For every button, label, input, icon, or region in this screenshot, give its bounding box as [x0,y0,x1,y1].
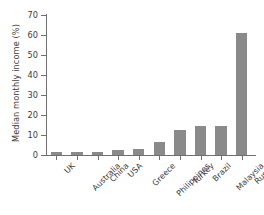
bar [174,130,186,155]
x-tick-label: Greece [151,162,177,188]
y-tick-label: 40 [0,71,38,79]
y-tick-label: 30 [0,91,38,99]
y-tick-label: 0 [0,151,38,159]
x-tick-mark [242,156,243,160]
y-tick-label: 60 [0,31,38,39]
x-tick-mark [180,156,181,160]
y-tick-label: 70 [0,11,38,19]
bar [71,152,83,155]
x-tick-mark [159,156,160,160]
x-tick-mark [118,156,119,160]
bar [236,33,248,155]
bar [133,149,145,155]
y-tick-label: 20 [0,111,38,119]
x-tick-mark [201,156,202,160]
y-tick-label: 50 [0,51,38,59]
x-tick-mark [98,156,99,160]
bar [215,126,227,155]
bar [195,126,207,155]
bar [112,150,124,155]
bar-chart: Median monthly income (%) 01020304050607… [0,0,264,215]
bar [92,152,104,155]
x-tick-mark [77,156,78,160]
x-tick-mark [56,156,57,160]
x-tick-mark [139,156,140,160]
plot-area [46,15,252,155]
x-tick-label: USA [127,162,144,179]
bar [154,142,166,155]
x-tick-label: UK [64,162,78,176]
x-axis-line [44,155,256,156]
x-tick-label: Brazil [211,162,232,183]
x-tick-mark [221,156,222,160]
y-tick-label: 10 [0,131,38,139]
y-tick-mark [41,155,46,156]
bar [51,152,63,155]
